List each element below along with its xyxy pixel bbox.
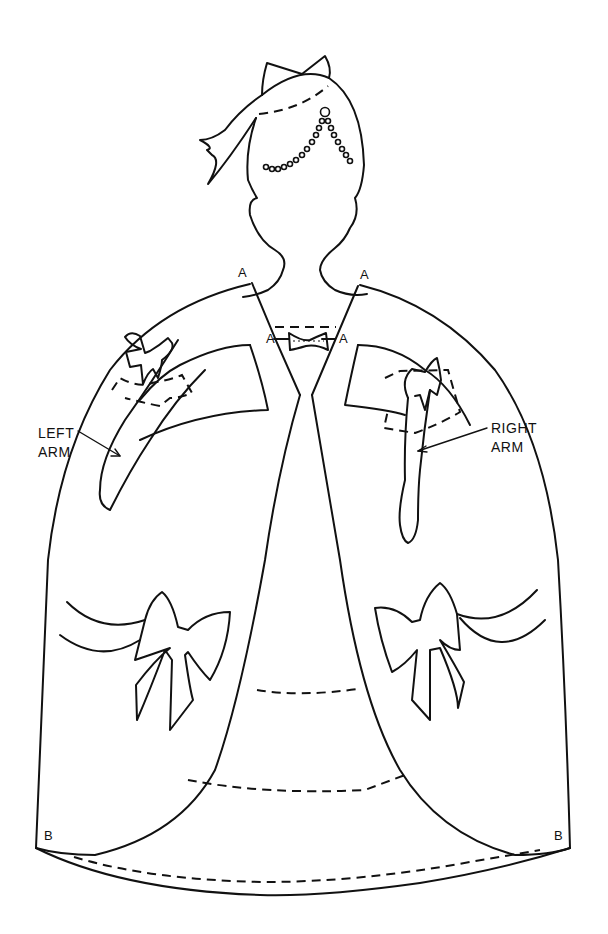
right-arm-arrow xyxy=(418,428,487,451)
gown-outline xyxy=(36,284,570,895)
point-a-left-shoulder: A xyxy=(238,265,247,280)
head-silhouette xyxy=(200,56,367,297)
right-arm-label-line1: RIGHT xyxy=(491,420,537,436)
left-arm-arrow xyxy=(78,431,120,456)
pattern-canvas: LEFT ARM RIGHT ARM A A A A B B xyxy=(0,0,608,934)
point-b-left-hem: B xyxy=(44,828,53,843)
left-arm-label-line1: LEFT xyxy=(38,425,74,441)
left-skirt-panel xyxy=(36,345,300,855)
right-arm-label-line2: ARM xyxy=(491,439,524,455)
point-a-left-bodice: A xyxy=(266,331,275,346)
left-arm-label-line2: ARM xyxy=(38,444,71,460)
labels: LEFT ARM RIGHT ARM A A A A B B xyxy=(38,265,563,843)
point-a-right-bodice: A xyxy=(339,331,348,346)
point-a-right-shoulder: A xyxy=(360,267,369,282)
right-arm[interactable] xyxy=(384,358,460,543)
pearl-chain xyxy=(264,119,353,172)
point-b-right-hem: B xyxy=(554,828,563,843)
